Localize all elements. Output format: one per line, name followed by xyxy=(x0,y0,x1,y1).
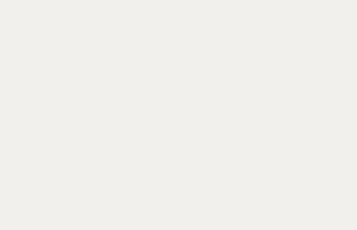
figure-container xyxy=(0,0,357,230)
graph-figure-svg xyxy=(0,0,357,230)
